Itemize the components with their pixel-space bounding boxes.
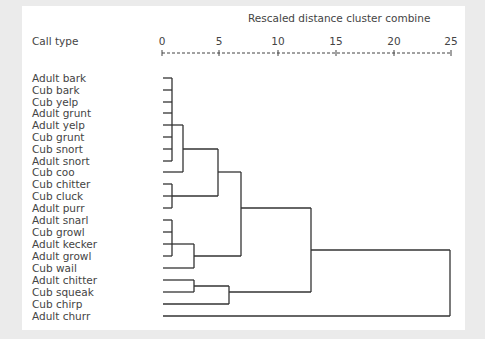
tree-branches — [163, 78, 450, 316]
dendrogram-tree — [0, 0, 485, 339]
axis-ruler — [162, 50, 451, 56]
